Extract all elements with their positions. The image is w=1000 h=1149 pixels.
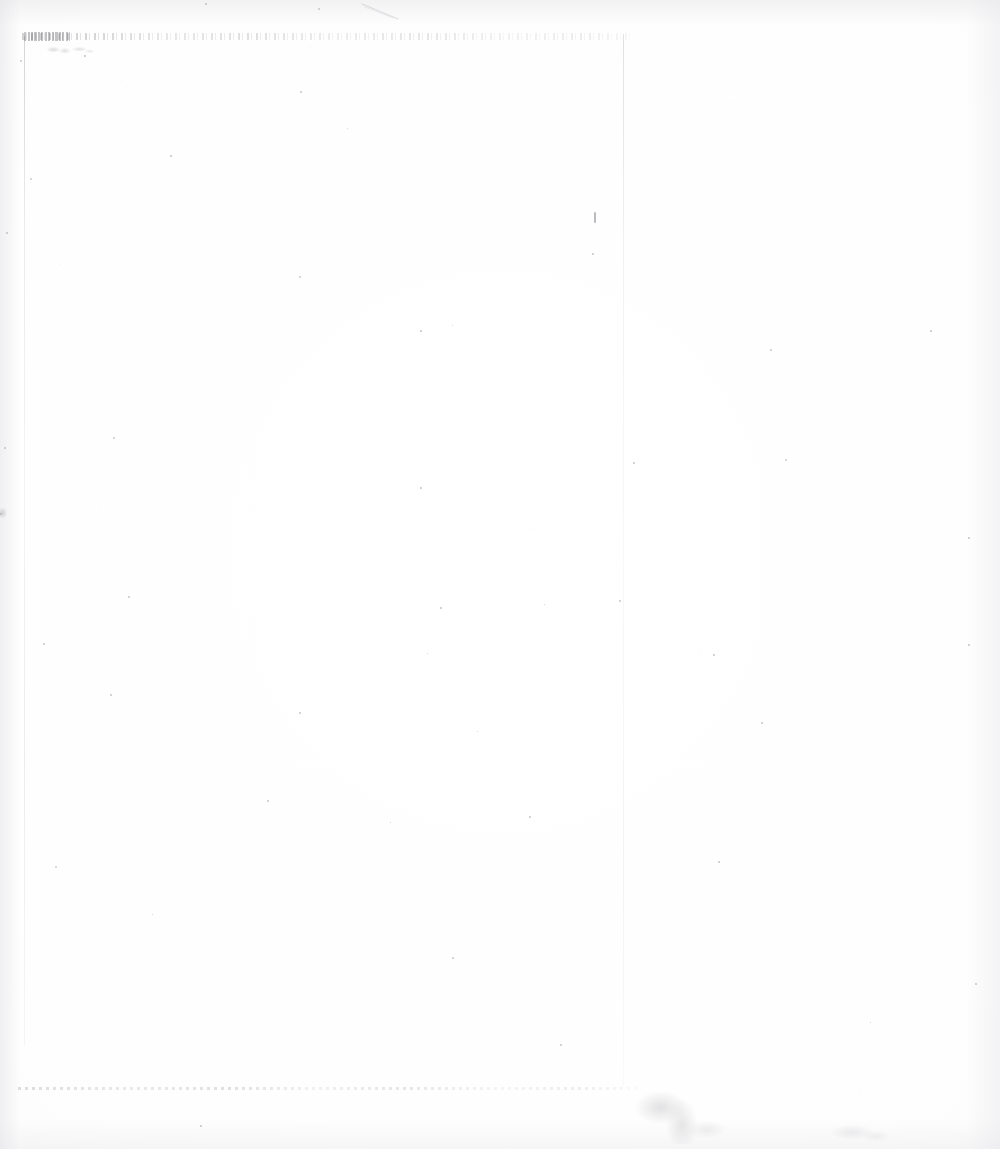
paper-speck	[299, 276, 301, 278]
paper-speck	[4, 447, 6, 449]
paper-speck	[968, 537, 970, 539]
paper-speck	[619, 600, 621, 602]
paper-speck	[718, 861, 720, 863]
paper-speck	[452, 957, 454, 959]
paper-speck	[110, 694, 112, 696]
paper-speck	[43, 643, 45, 645]
paper-speck	[420, 487, 422, 489]
paper-speck	[200, 1125, 202, 1127]
diagonal-scratch-mark	[360, 2, 402, 22]
paper-speck	[761, 722, 763, 724]
paper-speck	[318, 8, 320, 10]
paper-speck	[299, 712, 301, 714]
page-edge-shading-top	[0, 0, 1000, 26]
paper-grain-texture	[0, 0, 1000, 1149]
paper-speck	[770, 349, 772, 351]
paper-speck	[560, 1044, 562, 1046]
ink-tick-mark	[594, 212, 596, 223]
paper-speck	[113, 437, 115, 439]
paper-speck	[529, 816, 531, 818]
lower-right-stain	[632, 1092, 728, 1144]
page-edge-shading-right	[966, 0, 1000, 1149]
page-edge-shading-left	[0, 0, 20, 1149]
left-margin-rule	[24, 36, 25, 1046]
paper-speck	[968, 644, 970, 646]
column-divider-rule	[623, 34, 624, 1086]
scanned-document-page: Faded blank scanned document page with a…	[0, 0, 1000, 1149]
paper-speck	[930, 330, 932, 332]
lower-right-stain-secondary	[820, 1118, 900, 1144]
paper-speck	[633, 462, 635, 464]
paper-speck	[785, 459, 787, 461]
paper-speck	[20, 60, 22, 62]
paper-speck	[975, 983, 977, 985]
subheader-smudge	[44, 46, 96, 54]
paper-speck	[440, 607, 442, 609]
footer-dotted-rule	[18, 1087, 638, 1090]
paper-speck	[128, 596, 130, 598]
paper-speck	[6, 232, 8, 234]
paper-speck	[300, 91, 302, 93]
header-ink-cluster	[24, 32, 70, 41]
paper-speck	[713, 654, 715, 656]
paper-speck	[267, 800, 269, 802]
paper-speck	[205, 3, 207, 5]
paper-speck	[170, 155, 172, 157]
paper-speck	[592, 253, 594, 255]
header-text-line	[22, 33, 630, 40]
paper-speck	[420, 330, 422, 332]
paper-speck	[84, 55, 86, 57]
